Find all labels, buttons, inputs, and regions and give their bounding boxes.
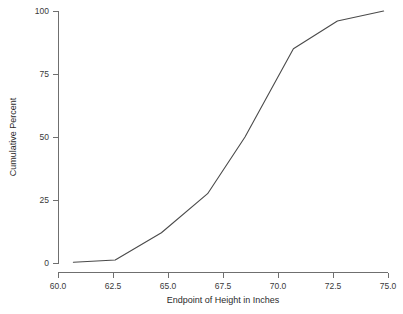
x-tick-label: 65.0 — [160, 281, 177, 291]
x-tick-label: 67.5 — [215, 281, 232, 291]
y-axis-title: Cumulative Percent — [8, 97, 18, 176]
y-tick-label: 100 — [35, 6, 49, 16]
x-tick-label: 70.0 — [270, 281, 287, 291]
cumulative-percent-line — [73, 11, 383, 262]
x-tick-label: 75.0 — [380, 281, 397, 291]
x-tick-label: 72.5 — [325, 281, 342, 291]
y-tick-label: 0 — [44, 258, 49, 268]
y-axis-tick-labels: 0255075100 — [35, 6, 49, 268]
x-axis-tick-labels: 60.062.565.067.570.072.575.0 — [50, 281, 397, 291]
x-axis-ticks — [58, 273, 388, 279]
y-axis-ticks — [53, 11, 59, 263]
y-tick-label: 50 — [40, 132, 50, 142]
y-tick-label: 25 — [40, 195, 50, 205]
y-tick-label: 75 — [40, 69, 50, 79]
cumulative-percent-chart: 0255075100 60.062.565.067.570.072.575.0 … — [0, 0, 403, 314]
x-tick-label: 60.0 — [50, 281, 67, 291]
chart-plot-area: 0255075100 60.062.565.067.570.072.575.0 … — [0, 0, 403, 314]
x-tick-label: 62.5 — [105, 281, 122, 291]
x-axis-title: Endpoint of Height in Inches — [167, 295, 280, 305]
